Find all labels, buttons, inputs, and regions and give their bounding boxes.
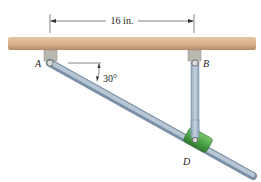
angle-label: 30° [103, 73, 117, 84]
dimension-label: 16 in. [111, 15, 134, 26]
ceiling-bar [8, 37, 256, 50]
mechanism-diagram: 16 in. 30° A B D [0, 0, 261, 182]
rod-a [50, 62, 253, 176]
label-b: B [203, 58, 209, 69]
label-d: D [182, 156, 191, 167]
link-bd-front [191, 120, 199, 138]
pin-d [192, 137, 197, 142]
pin-b [192, 60, 198, 66]
label-a: A [34, 58, 42, 69]
bracket-b [188, 50, 201, 61]
dimension-16in: 16 in. [50, 14, 194, 33]
pin-a [47, 60, 53, 66]
